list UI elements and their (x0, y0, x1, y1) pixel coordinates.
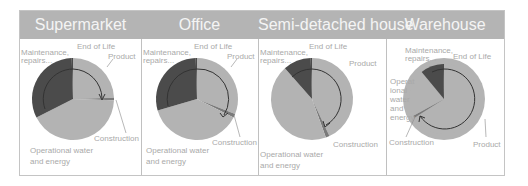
label-operational-2: and energy (260, 161, 300, 170)
label-construction: Construction (389, 138, 434, 147)
label-maintenance-2: repairs... (143, 56, 174, 65)
leader-line (485, 119, 486, 137)
label-end-of-life: End of Life (309, 42, 348, 51)
label-operational: Operational water (30, 146, 93, 155)
label-operational-2: ional (390, 86, 407, 95)
label-maintenance-2: repairs... (21, 56, 52, 65)
pie-chart-warehouse: Maintenance, repairs... End of Life Oper… (387, 39, 505, 175)
label-product: Product (108, 52, 136, 61)
label-product: Product (473, 140, 501, 149)
title-supermarket: Supermarket (20, 13, 141, 37)
header-band: Supermarket Office Semi-detached house W… (20, 11, 504, 39)
label-operational: Operational water (260, 150, 323, 159)
panel-supermarket: End of Life Product Maintenance, repairs… (20, 39, 141, 175)
panel-warehouse: Maintenance, repairs... End of Life Oper… (386, 39, 504, 175)
chart-frame: Supermarket Office Semi-detached house W… (19, 10, 505, 176)
title-office: Office (141, 13, 258, 37)
label-product: Product (349, 59, 377, 68)
label-end-of-life: End of Life (77, 42, 116, 51)
label-operational-2: and energy (30, 157, 70, 166)
label-operational-5: energy (390, 113, 414, 122)
label-maintenance-2: repairs... (260, 56, 291, 65)
pie-chart-office: End of Life Product Maintenance, repairs… (142, 39, 259, 175)
label-maintenance-2: repairs... (405, 54, 436, 63)
label-operational: Operat (390, 77, 415, 86)
label-operational-3: water (389, 95, 410, 104)
label-operational: Operational water (146, 146, 209, 155)
pie-chart-semi-detached-house: End of Life Product Maintenance, repairs… (259, 39, 387, 175)
label-construction: Construction (333, 140, 378, 149)
label-end-of-life: End of Life (453, 52, 492, 61)
label-product: Product (227, 52, 255, 61)
label-construction: Construction (212, 138, 257, 147)
label-operational-4: and (390, 104, 403, 113)
panel-semi-detached-house: End of Life Product Maintenance, repairs… (258, 39, 386, 175)
panel-office: End of Life Product Maintenance, repairs… (141, 39, 258, 175)
pie-chart-supermarket: End of Life Product Maintenance, repairs… (20, 39, 141, 175)
label-construction: Construction (94, 134, 139, 143)
label-operational-2: and energy (146, 157, 186, 166)
title-warehouse: Warehouse (386, 13, 504, 37)
title-semi-detached-house: Semi-detached house (258, 13, 386, 37)
leader-line (234, 115, 240, 137)
leader-line (116, 100, 126, 133)
label-end-of-life: End of Life (194, 42, 233, 51)
